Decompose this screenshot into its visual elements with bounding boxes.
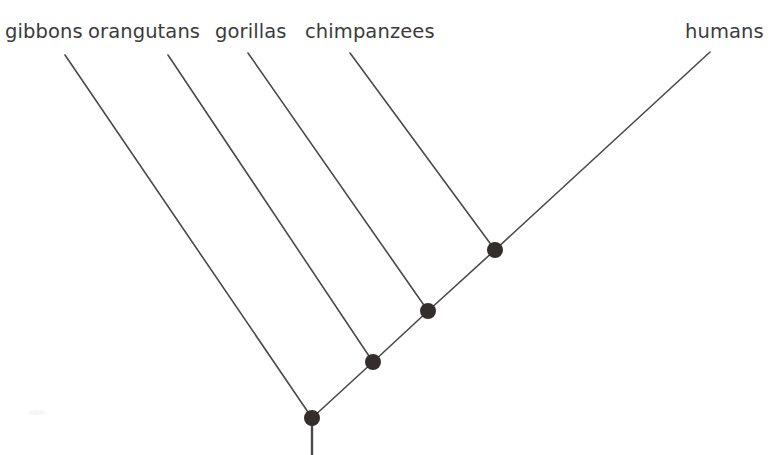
taxon-label-gibbons: gibbons	[5, 22, 83, 42]
branch-node3-node2	[373, 311, 428, 362]
branch-tip-chimpanzees	[350, 53, 495, 250]
taxon-label-orangutans: orangutans	[88, 22, 200, 42]
branch-tip-gibbons	[65, 55, 312, 418]
cladogram-tree	[0, 0, 777, 455]
internal-node-node4	[487, 242, 503, 258]
branch-tip-orangutans	[168, 55, 373, 362]
internal-node-node3	[420, 303, 436, 319]
internal-node-root	[304, 410, 320, 426]
branch-tip-humans	[495, 52, 710, 250]
branch-node2-root	[312, 362, 373, 418]
internal-node-node2	[365, 354, 381, 370]
branch-tip-gorillas	[248, 53, 428, 311]
taxon-label-gorillas: gorillas	[215, 22, 287, 42]
taxon-label-chimpanzees: chimpanzees	[305, 22, 435, 42]
branch-layer	[65, 52, 710, 418]
cladogram-figure: gibbons orangutans gorillas chimpanzees …	[0, 0, 777, 455]
taxon-label-humans: humans	[685, 22, 764, 42]
branch-node4-node3	[428, 250, 495, 311]
